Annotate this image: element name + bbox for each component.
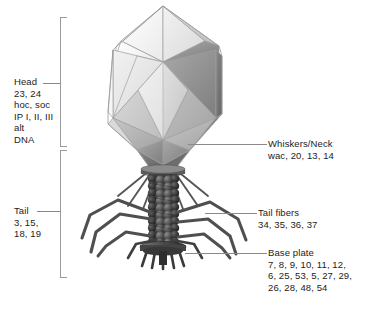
label-whiskers-neck: Whiskers/Neck wac, 20, 13, 14 <box>268 138 334 161</box>
tail-fibers <box>82 200 246 258</box>
tail-group-bracket <box>60 150 67 278</box>
base-plate <box>140 241 186 269</box>
tail-sheath <box>148 174 179 247</box>
whiskers-neck-leader-line <box>188 144 267 145</box>
neck-collar <box>141 165 185 177</box>
phage-diagram-page: Head 23, 24 hoc, soc IP I, II, III alt D… <box>0 0 367 311</box>
label-head: Head 23, 24 hoc, soc IP I, II, III alt D… <box>14 76 53 146</box>
base-plate-leader-line <box>185 253 267 254</box>
capsid-head <box>108 6 222 172</box>
label-tail: Tail 3, 15, 18, 19 <box>14 205 41 240</box>
head-group-bracket <box>60 17 67 147</box>
label-tail-fibers: Tail fibers 34, 35, 36, 37 <box>258 207 318 230</box>
whiskers <box>118 174 208 209</box>
label-base-plate: Base plate 7, 8, 9, 10, 11, 12, 6, 25, 5… <box>268 247 352 293</box>
tail-fibers-leader-line <box>205 213 257 214</box>
